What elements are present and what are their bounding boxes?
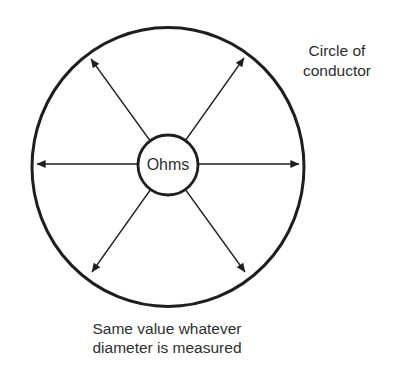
circle-of-conductor-label: Circle of conductor xyxy=(286,41,388,81)
ohms-label: Ohms xyxy=(118,155,218,174)
same-value-caption: Same value whatever diameter is measured xyxy=(62,319,272,357)
conductor-resistance-diagram: Ohms Circle of conductor Same value what… xyxy=(0,0,398,368)
